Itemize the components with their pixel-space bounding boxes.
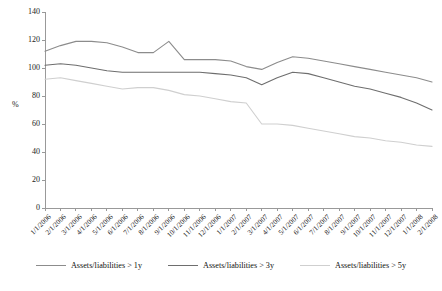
plot-area xyxy=(0,0,442,291)
legend-line-swatch xyxy=(36,265,66,266)
legend-label: Assets/liabilities > 5y xyxy=(335,261,406,270)
data-series-group xyxy=(45,41,432,146)
legend-item[interactable]: Assets/liabilities > 1y xyxy=(36,261,142,270)
legend-label: Assets/liabilities > 1y xyxy=(71,261,142,270)
chart-container: % 140120100806040200 1/1/20062/1/20063/1… xyxy=(0,0,442,291)
chart-legend: Assets/liabilities > 1yAssets/liabilitie… xyxy=(0,261,442,279)
y-axis-tick-label: 80 xyxy=(12,92,40,100)
y-axis-title: % xyxy=(12,100,19,109)
series-line xyxy=(45,78,432,147)
legend-line-swatch xyxy=(168,265,198,266)
y-axis-tick-label: 100 xyxy=(12,64,40,72)
legend-line-swatch xyxy=(300,265,330,266)
legend-item[interactable]: Assets/liabilities > 5y xyxy=(300,261,406,270)
legend-label: Assets/liabilities > 3y xyxy=(203,261,274,270)
y-axis-tick-label: 120 xyxy=(12,36,40,44)
legend-item[interactable]: Assets/liabilities > 3y xyxy=(168,261,274,270)
y-axis-tick-label: 40 xyxy=(12,148,40,156)
series-line xyxy=(45,64,432,110)
y-axis-tick-label: 140 xyxy=(12,8,40,16)
y-axis-tick-label: 60 xyxy=(12,120,40,128)
y-axis-tick-label: 20 xyxy=(12,176,40,184)
y-axis-tick-label: 0 xyxy=(12,204,40,212)
